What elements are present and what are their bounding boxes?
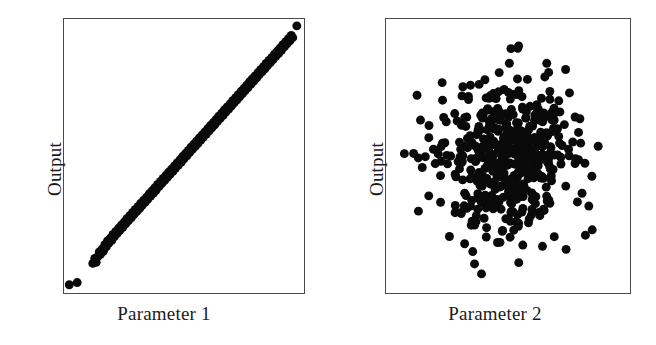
scatter-point — [478, 109, 487, 118]
scatter-points-right — [386, 19, 630, 293]
scatter-point — [584, 202, 593, 211]
scatter-point — [484, 197, 493, 206]
scatter-point — [438, 96, 447, 105]
scatter-point — [540, 130, 549, 139]
scatter-point — [480, 214, 489, 223]
scatter-point — [547, 173, 556, 182]
scatter-point — [514, 258, 523, 267]
scatter-point — [545, 95, 554, 104]
scatter-point — [509, 146, 518, 155]
plot-area-left — [63, 18, 305, 294]
scatter-point — [483, 177, 492, 186]
scatter-point — [511, 160, 520, 169]
scatter-point — [416, 116, 425, 125]
scatter-point — [466, 202, 475, 211]
scatter-point — [526, 154, 535, 163]
scatter-point — [292, 21, 301, 30]
panel-parameter-2: Output Parameter 2 — [328, 0, 656, 345]
scatter-point — [507, 199, 516, 208]
scatter-point — [400, 149, 409, 158]
scatter-point — [434, 149, 443, 158]
scatter-point — [443, 159, 452, 168]
y-axis-label-left: Output — [44, 142, 66, 196]
scatter-point — [484, 146, 493, 155]
scatter-point — [493, 195, 502, 204]
scatter-point — [482, 223, 491, 232]
scatter-point — [514, 219, 523, 228]
scatter-point — [513, 74, 522, 83]
scatter-point — [529, 190, 538, 199]
scatter-point — [594, 142, 603, 151]
scatter-point — [498, 226, 507, 235]
scatter-point — [468, 247, 477, 256]
scatter-point — [436, 198, 445, 207]
scatter-point — [587, 172, 596, 181]
scatter-point — [424, 191, 433, 200]
scatter-point — [564, 145, 573, 154]
scatter-point — [514, 41, 523, 50]
scatter-point — [550, 109, 559, 118]
scatter-point — [542, 59, 551, 68]
scatter-point — [288, 33, 297, 42]
scatter-point — [475, 152, 484, 161]
scatter-point — [576, 139, 585, 148]
scatter-point — [464, 95, 473, 104]
scatter-point — [537, 94, 546, 103]
scatter-point — [517, 136, 526, 145]
scatter-point — [575, 114, 584, 123]
scatter-point — [494, 87, 503, 96]
scatter-point — [496, 238, 505, 247]
scatter-points-left — [64, 19, 304, 293]
scatter-point — [439, 113, 448, 122]
scatter-point — [573, 197, 582, 206]
scatter-point — [413, 91, 422, 100]
scatter-point — [482, 93, 491, 102]
scatter-point — [517, 127, 526, 136]
scatter-point — [508, 177, 517, 186]
scatter-point — [65, 280, 74, 289]
scatter-point — [484, 154, 493, 163]
scatter-point — [458, 175, 467, 184]
scatter-point — [446, 152, 455, 161]
scatter-point — [578, 189, 587, 198]
scatter-point — [574, 128, 583, 137]
scatter-point — [425, 121, 434, 130]
scatter-point — [501, 214, 510, 223]
scatter-point — [504, 88, 513, 97]
scatter-point — [445, 232, 454, 241]
scatter-point — [440, 138, 449, 147]
scatter-point — [477, 269, 486, 278]
scatter-point — [554, 96, 563, 105]
scatter-point — [561, 182, 570, 191]
scatter-point — [562, 245, 571, 254]
scatter-point — [518, 241, 527, 250]
scatter-point — [438, 78, 447, 87]
plot-area-right — [385, 18, 631, 294]
scatter-point — [466, 81, 475, 90]
scatter-point — [538, 110, 547, 119]
scatter-point — [424, 133, 433, 142]
scatter-point — [553, 124, 562, 133]
scatter-point — [460, 239, 469, 248]
scatter-point — [525, 214, 534, 223]
scatter-point — [523, 75, 532, 84]
scatter-point — [504, 160, 513, 169]
scatter-point — [476, 173, 485, 182]
scatter-point — [545, 87, 554, 96]
scatter-point — [556, 160, 565, 169]
scatter-point — [514, 167, 523, 176]
scatter-point — [458, 82, 467, 91]
scatter-point — [514, 86, 523, 95]
scatter-point — [456, 153, 465, 162]
scatter-point — [542, 183, 551, 192]
scatter-point — [475, 80, 484, 89]
scatter-point — [496, 182, 505, 191]
scatter-point — [418, 163, 427, 172]
scatter-point — [550, 151, 559, 160]
scatter-point — [453, 116, 462, 125]
scatter-point — [540, 139, 549, 148]
scatter-point — [528, 144, 537, 153]
scatter-point — [530, 133, 539, 142]
panel-parameter-1: Output Parameter 1 — [0, 0, 328, 345]
scatter-point — [506, 44, 515, 53]
